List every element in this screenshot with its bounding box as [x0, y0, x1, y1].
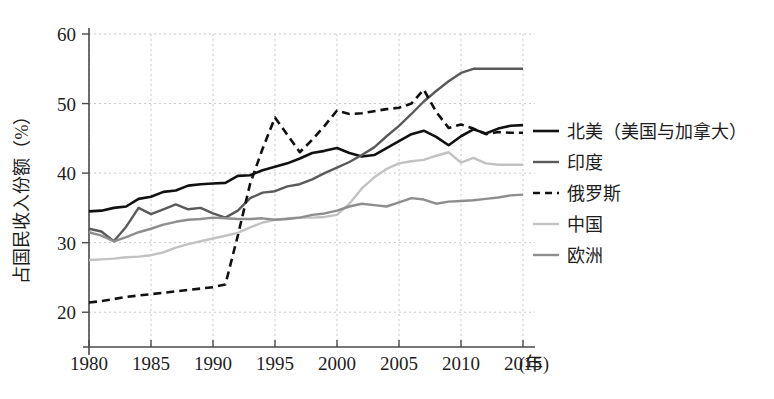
x-axis-unit-label: (年): [519, 354, 549, 375]
legend-label: 印度: [567, 153, 603, 173]
y-tick-label: 30: [57, 233, 76, 254]
x-tick-label: 1985: [132, 353, 170, 374]
y-tick-label: 20: [57, 302, 76, 323]
chart-canvas: 19801985199019952000200520102015 2030405…: [0, 0, 774, 399]
line-chart: 19801985199019952000200520102015 2030405…: [0, 0, 774, 399]
gridlines: [89, 34, 535, 347]
legend-label: 北美（美国与加拿大）: [567, 121, 747, 142]
legend-label: 俄罗斯: [567, 184, 621, 204]
x-tick-label: 1995: [256, 353, 294, 374]
y-axis-title: 占国民收入份额（%）: [12, 107, 32, 284]
x-tick-label: 2000: [318, 353, 356, 374]
tick-marks: [82, 34, 523, 347]
x-tick-label: 1990: [194, 353, 232, 374]
y-tick-label: 60: [57, 24, 76, 45]
y-tick-label: 40: [57, 163, 76, 184]
chart-legend: 北美（美国与加拿大）印度俄罗斯中国欧洲: [533, 121, 747, 266]
x-axis-tick-labels: 19801985199019952000200520102015: [70, 353, 542, 374]
legend-label: 欧洲: [567, 246, 603, 266]
series-line: [89, 125, 523, 211]
y-axis-tick-labels: 2030405060: [57, 24, 76, 323]
series-line: [89, 152, 523, 260]
x-tick-label: 2010: [442, 353, 480, 374]
x-tick-label: 2005: [380, 353, 418, 374]
x-tick-label: 1980: [70, 353, 108, 374]
y-tick-label: 50: [57, 94, 76, 115]
legend-label: 中国: [567, 215, 603, 235]
